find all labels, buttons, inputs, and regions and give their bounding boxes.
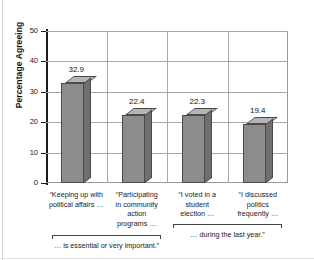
bar-side-face — [266, 119, 273, 183]
bar-front-face — [122, 115, 145, 183]
y-tick-label: 20 — [0, 118, 38, 126]
group-bracket-label: … is essential or very important.” — [22, 241, 191, 250]
y-tick-label: 30 — [0, 88, 38, 96]
x-category-label-line: “I discussed — [224, 190, 293, 200]
gridline-vertical — [107, 31, 108, 183]
bar-value-label: 22.4 — [114, 97, 160, 106]
y-tick-label: 0 — [0, 179, 38, 187]
page-edge-bottom-rule — [0, 258, 314, 259]
bar-front-face — [243, 124, 266, 183]
x-category-label-line: frequently … — [224, 209, 293, 219]
x-category-label-line: programs … — [103, 219, 172, 229]
bar-side-face — [84, 78, 91, 183]
x-category-label: “I discussedpoliticsfrequently … — [224, 190, 293, 219]
bar — [61, 83, 84, 183]
x-category-label-line: election … — [163, 209, 232, 219]
x-category-label-line: in community — [103, 200, 172, 210]
gridline-vertical — [167, 31, 168, 183]
y-tick-label: 40 — [0, 57, 38, 65]
bar-front-face — [182, 115, 205, 183]
group-bracket-line — [173, 224, 282, 228]
bar-value-label: 19.4 — [235, 106, 281, 115]
bar — [243, 124, 266, 183]
plot-area: 32.922.422.319.4 — [46, 31, 288, 183]
page-edge-left-rule — [2, 0, 3, 260]
x-category-label-line: action — [103, 209, 172, 219]
x-category-label-line: student — [163, 200, 232, 210]
x-category-label-line: “Participating — [103, 190, 172, 200]
gridline-vertical — [228, 31, 229, 183]
chart-figure: Percentage Agreeing 01020304050 32.922.4… — [0, 0, 314, 260]
x-category-label-line: political affairs … — [42, 200, 111, 210]
y-tick-label: 10 — [0, 149, 38, 157]
x-category-label: “I voted in astudentelection … — [163, 190, 232, 219]
bar-side-face — [205, 110, 212, 183]
y-tick-label: 50 — [0, 27, 38, 35]
x-category-label-line: “Keeping up with — [42, 190, 111, 200]
x-category-label: “Keeping up withpolitical affairs … — [42, 190, 111, 209]
x-category-label-line: politics — [224, 200, 293, 210]
bar — [122, 115, 145, 183]
bar — [182, 115, 205, 183]
group-bracket-label: … during the last year.” — [143, 230, 312, 239]
x-category-label-line: “I voted in a — [163, 190, 232, 200]
bar-value-label: 22.3 — [174, 97, 220, 106]
x-category-label: “Participatingin communityactionprograms… — [103, 190, 172, 228]
bar-value-label: 32.9 — [53, 65, 99, 74]
bar-front-face — [61, 83, 84, 183]
bar-side-face — [145, 109, 152, 183]
